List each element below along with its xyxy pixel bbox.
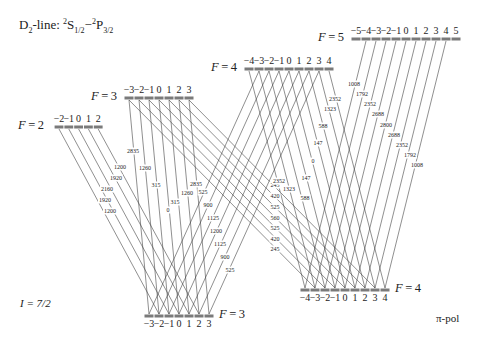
sublevel-bar <box>442 38 451 41</box>
m-label: 1 <box>414 25 419 36</box>
sublevel-bar <box>64 126 73 129</box>
sublevel-bar <box>295 68 304 71</box>
sublevel-bar <box>412 38 421 41</box>
transition-strength-label: 560 <box>270 215 281 222</box>
transition-line <box>69 129 169 314</box>
m-label: 2 <box>197 318 202 329</box>
transition-strength-label: 1008 <box>410 162 424 169</box>
transition-strength-label: 1323 <box>282 186 296 193</box>
transition-strength-label: 1792 <box>355 91 369 98</box>
transition-strength-label: 1200 <box>103 208 117 215</box>
m-label: 5 <box>454 25 459 36</box>
transition-strength-label: 1260 <box>138 165 152 172</box>
transition-strength-label: 1920 <box>98 197 112 204</box>
m-label: 2 <box>177 84 182 95</box>
m-label: 0 <box>343 292 348 303</box>
transition-strength-label: 1200 <box>113 164 127 171</box>
transition-strength-label: 2352 <box>272 178 286 185</box>
sublevel-bar <box>352 38 361 41</box>
sublevel-bar <box>94 126 103 129</box>
m-label: 0 <box>177 318 182 329</box>
transition-strength-label: 0 <box>311 158 316 165</box>
m-label: 2 <box>307 55 312 66</box>
sublevel-bar <box>175 97 184 100</box>
transition-strength-label: 2352 <box>328 96 342 103</box>
transition-strength-label: 245 <box>270 246 281 253</box>
transition-strength-label: 900 <box>220 254 231 261</box>
transition-strength-label: 1792 <box>403 152 417 159</box>
m-label: 4 <box>327 55 332 66</box>
transition-strength-label: 588 <box>300 195 311 202</box>
transition-strength-label: 420 <box>270 236 281 243</box>
transition-strength-label: 2800 <box>379 122 393 129</box>
m-label: 3 <box>207 318 212 329</box>
transition-strength-label: 525 <box>270 225 281 232</box>
sublevel-bar <box>285 68 294 71</box>
transition-line <box>309 71 365 288</box>
sublevel-bar <box>315 68 324 71</box>
m-label: 0 <box>157 84 162 95</box>
transition-strength-label: 1200 <box>209 228 223 235</box>
upper-level-label-3: F = 5 <box>318 30 344 45</box>
sublevel-bar <box>145 97 154 100</box>
transition-line <box>179 100 199 314</box>
sublevel-bar <box>452 38 461 41</box>
m-label: 3 <box>317 55 322 66</box>
m-label: 0 <box>287 55 292 66</box>
transition-strength-label: 2688 <box>371 111 385 118</box>
sublevel-bar <box>125 97 134 100</box>
transition-strength-label: 2352 <box>363 101 377 108</box>
transition-strength-label: 1260 <box>180 190 194 197</box>
m-label: −1 <box>274 55 285 66</box>
transition-strength-label: 315 <box>170 199 181 206</box>
transition-strength-label: 147 <box>301 175 312 182</box>
lower-level-label-0: F = 3 <box>219 307 245 322</box>
transition-strength-label: 420 <box>270 193 281 200</box>
sublevel-bar <box>245 68 254 71</box>
upper-level-label-0: F = 2 <box>18 118 44 133</box>
transition-line <box>199 71 309 314</box>
transition-strength-label: 588 <box>318 123 329 130</box>
m-label: 1 <box>187 318 192 329</box>
m-label: 1 <box>353 292 358 303</box>
transition-strength-label: 525 <box>225 267 236 274</box>
sublevel-bar <box>265 68 274 71</box>
transition-strength-label: 1125 <box>206 215 220 222</box>
sublevel-bar <box>362 38 371 41</box>
m-label: 3 <box>434 25 439 36</box>
sublevel-bar <box>402 38 411 41</box>
m-label: 3 <box>187 84 192 95</box>
sublevel-bar <box>325 68 334 71</box>
m-label: −1 <box>144 84 155 95</box>
sublevel-bar <box>155 97 164 100</box>
transition-strength-label: 525 <box>270 204 281 211</box>
sublevel-bar <box>84 126 93 129</box>
upper-level-label-1: F = 3 <box>91 89 117 104</box>
m-label: 1 <box>167 84 172 95</box>
m-label: 0 <box>76 113 81 124</box>
diagram-title: D2-line: 2S1/2−2P3/2 <box>19 17 113 35</box>
transition-line <box>98 129 199 314</box>
polarization-label: π-pol <box>436 312 459 324</box>
m-label: 2 <box>363 292 368 303</box>
sublevel-bar <box>74 126 83 129</box>
transition-line <box>289 71 345 288</box>
transition-strength-label: 2352 <box>395 142 409 149</box>
transition-strength-label: 1920 <box>109 175 123 182</box>
sublevel-bar <box>392 38 401 41</box>
transition-strength-label: 2835 <box>126 148 140 155</box>
transition-strength-label: 525 <box>198 189 209 196</box>
sublevel-bar <box>305 68 314 71</box>
sublevel-bar <box>165 97 174 100</box>
transition-strength-label: 1323 <box>323 106 337 113</box>
m-label: 2 <box>96 113 101 124</box>
transition-strength-label: 0 <box>166 207 171 214</box>
m-label: 1 <box>86 113 91 124</box>
transition-line <box>59 129 159 314</box>
sublevel-bar <box>135 97 144 100</box>
sublevel-bar <box>422 38 431 41</box>
transition-line <box>79 129 179 314</box>
transition-strength-label: 147 <box>313 140 324 147</box>
m-label: 0 <box>404 25 409 36</box>
transition-line <box>189 100 375 288</box>
